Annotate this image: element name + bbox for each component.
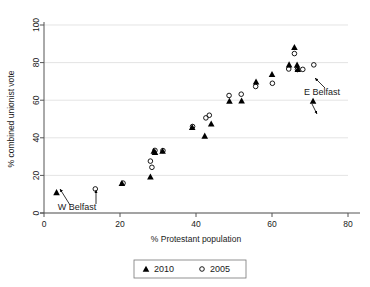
y-axis-title: % combined unionist vote <box>6 70 16 167</box>
y-axis-tick-label: 20 <box>31 170 41 180</box>
y-axis-tick-label: 40 <box>31 133 41 143</box>
x-axis-tick-label: 0 <box>42 219 47 229</box>
y-axis-tick-label: 100 <box>31 18 41 32</box>
x-axis-title: % Protestant population <box>151 234 242 244</box>
x-axis-tick-label: 40 <box>191 219 201 229</box>
x-axis-tick-label: 60 <box>267 219 277 229</box>
y-axis-tick-label: 80 <box>31 58 41 68</box>
chart-canvas: 020406080100020406080% Protestant popula… <box>0 0 370 287</box>
legend-label-2005: 2005 <box>210 264 230 274</box>
x-axis-tick-label: 20 <box>115 219 125 229</box>
legend-label-2010: 2010 <box>154 264 174 274</box>
y-axis-tick-label: 0 <box>31 210 41 215</box>
plot-background <box>44 25 348 213</box>
annotation-label: W Belfast <box>58 202 97 212</box>
annotation-label: E Belfast <box>304 87 341 97</box>
x-axis-tick-label: 80 <box>343 219 353 229</box>
scatter-chart: 020406080100020406080% Protestant popula… <box>0 0 370 287</box>
y-axis-tick-label: 60 <box>31 95 41 105</box>
